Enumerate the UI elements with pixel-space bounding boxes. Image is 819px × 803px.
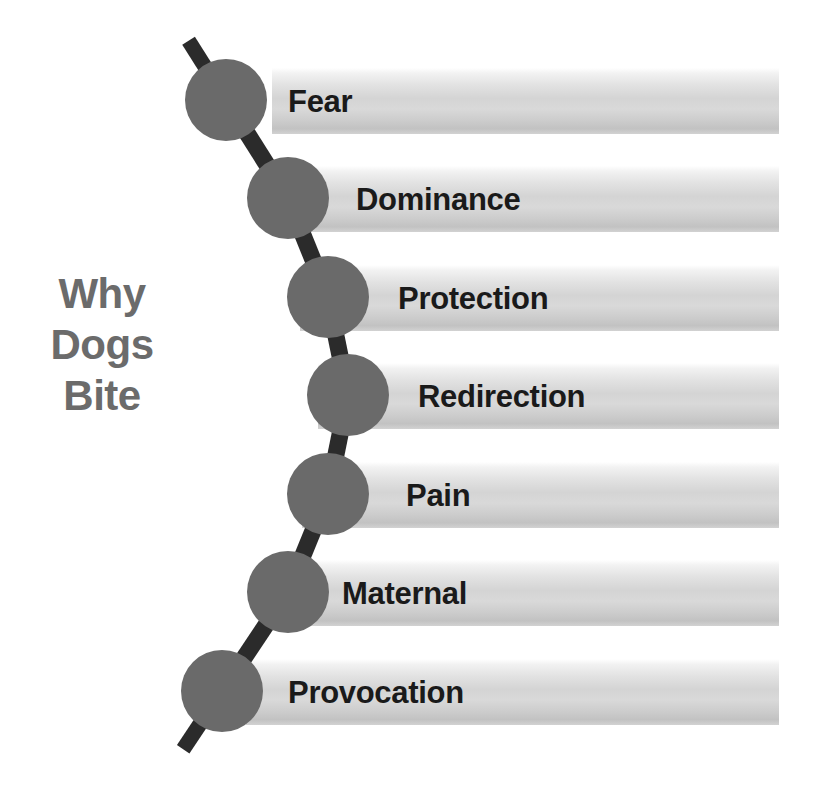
page-title-line-2: Dogs xyxy=(22,319,182,370)
chain-node xyxy=(181,650,263,732)
bar-label: Pain xyxy=(406,478,470,514)
page-title-line-3: Bite xyxy=(22,370,182,421)
chain-node xyxy=(287,256,369,338)
chain-node xyxy=(247,157,329,239)
page-title-line-1: Why xyxy=(22,268,182,319)
bar-label: Protection xyxy=(398,281,548,317)
infographic-canvas: FearDominanceProtectionRedirectionPainMa… xyxy=(0,0,819,803)
bar-label: Fear xyxy=(288,84,352,120)
chain-node xyxy=(185,59,267,141)
page-title: WhyDogsBite xyxy=(22,268,182,422)
bar-label: Redirection xyxy=(418,379,585,415)
chain-node xyxy=(247,551,329,633)
chain-node xyxy=(307,354,389,436)
bar-label: Maternal xyxy=(342,576,467,612)
chain-node xyxy=(287,453,369,535)
bar-label: Dominance xyxy=(356,182,520,218)
bar-label: Provocation xyxy=(288,675,464,711)
